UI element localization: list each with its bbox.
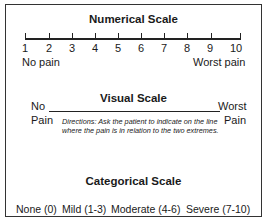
tick-4 [95,33,96,39]
tick-1 [25,33,26,39]
category-severe: Severe (7-10) [186,203,250,215]
scale-number: 9 [207,42,213,54]
tick-6 [141,33,142,39]
tick-3 [72,33,73,39]
visual-pain-label-left: Pain [31,114,53,126]
scale-number: 10 [230,42,242,54]
scale-number: 4 [92,42,98,54]
tick-8 [187,33,188,39]
categorical-scale-title: Categorical Scale [0,175,267,187]
visual-worst-label: Worst [218,100,247,112]
scale-number: 6 [138,42,144,54]
category-moderate: Moderate (4-6) [111,203,180,215]
visual-scale-directions: Directions: Ask the patient to indicate … [62,117,219,135]
scale-number: 7 [161,42,167,54]
visual-analog-line[interactable] [49,111,220,112]
numerical-scale-ruler [25,38,241,40]
scale-number: 1 [22,42,28,54]
tick-5 [118,33,119,39]
scale-number: 8 [184,42,190,54]
tick-7 [164,33,165,39]
tick-10 [240,33,241,39]
tick-2 [49,33,50,39]
numerical-worst-pain-label: Worst pain [193,56,245,68]
scale-number: 2 [46,42,52,54]
scale-number: 3 [69,42,75,54]
numerical-scale-title: Numerical Scale [0,13,267,25]
category-none: None (0) [16,203,57,215]
category-mild: Mild (1-3) [62,203,106,215]
visual-pain-label-right: Pain [224,114,246,126]
scale-number: 5 [115,42,121,54]
visual-no-label: No [31,100,45,112]
numerical-no-pain-label: No pain [22,56,60,68]
tick-9 [211,33,212,39]
